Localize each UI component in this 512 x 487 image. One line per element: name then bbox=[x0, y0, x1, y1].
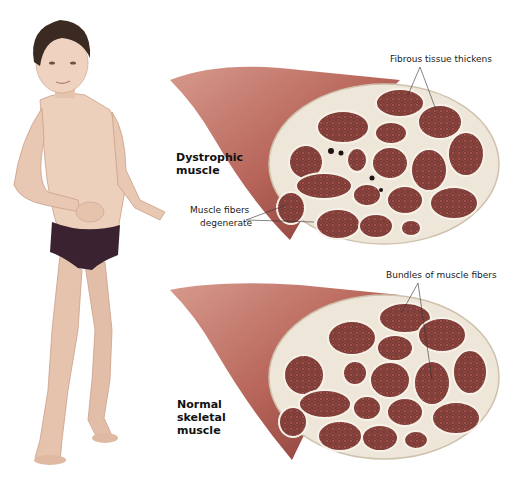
muscular-dystrophy-illustration: Fibrous tissue thickens Dystrophic muscl… bbox=[0, 0, 512, 487]
illustration-canvas bbox=[0, 0, 512, 487]
callout-bundles: Bundles of muscle fibers bbox=[386, 270, 497, 281]
callout-fibrous-tissue: Fibrous tissue thickens bbox=[390, 54, 492, 65]
normal-title-line3: muscle bbox=[177, 424, 221, 437]
dystrophic-title-line1: Dystrophic bbox=[176, 151, 243, 164]
child-figure bbox=[14, 20, 165, 465]
dystrophic-title-line2: muscle bbox=[176, 164, 220, 177]
callout-muscle-fibers-line1: Muscle fibers bbox=[190, 205, 249, 216]
normal-title-line1: Normal bbox=[177, 398, 222, 411]
normal-title-line2: skeletal bbox=[177, 411, 226, 424]
callout-muscle-fibers-line2: degenerate bbox=[200, 218, 252, 229]
